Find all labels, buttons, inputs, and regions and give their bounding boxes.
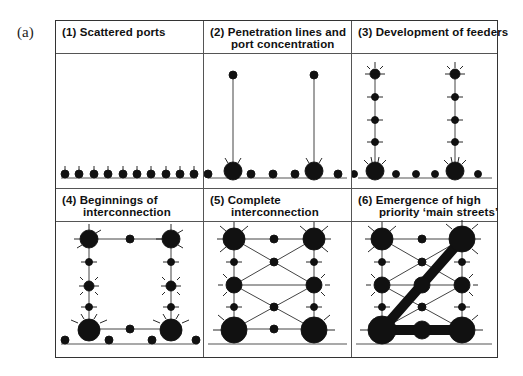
feeders-diagram xyxy=(352,21,498,188)
beginnings-interconnection-diagram xyxy=(56,189,203,357)
panel-6-main-streets: (6) Emergence of highpriority ‘main stre… xyxy=(352,189,498,357)
figure-frame: (1) Scattered ports (2) Penetration line… xyxy=(55,20,498,358)
figure-label: (a) xyxy=(17,24,34,41)
complete-interconnection-diagram xyxy=(204,189,351,357)
panel-5-complete-interconnection: (5) Completeinterconnection xyxy=(204,189,351,357)
panel-3-feeders: (3) Development of feeders xyxy=(352,21,498,188)
scattered-ports-diagram xyxy=(56,21,203,188)
panel-2-penetration-lines: (2) Penetration lines andport concentrat… xyxy=(204,21,351,188)
main-streets-diagram xyxy=(352,189,498,357)
panel-1-scattered-ports: (1) Scattered ports xyxy=(56,21,203,188)
port-node xyxy=(61,166,69,178)
penetration-lines-diagram xyxy=(204,21,351,188)
panel-4-beginnings-interconnection: (4) Beginnings ofinterconnection xyxy=(56,189,203,357)
